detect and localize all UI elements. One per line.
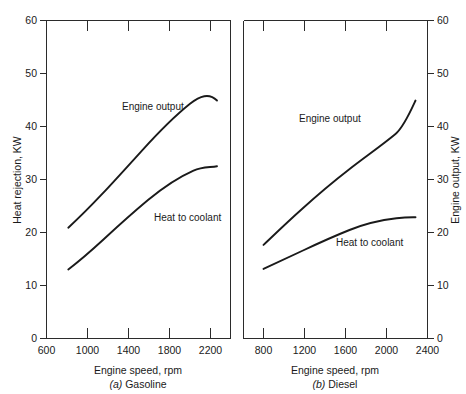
panel-a-ytick-40: 40 xyxy=(25,120,37,132)
panel-b-ytick-30: 30 xyxy=(437,173,449,185)
panel-a-xtick-600: 600 xyxy=(38,344,56,356)
panel-a-ytick-50: 50 xyxy=(25,67,37,79)
panel-b-caption-text: Diesel xyxy=(325,378,357,390)
panel-a-caption-prefix: (a) xyxy=(109,378,122,390)
panel-b-ytick-50: 50 xyxy=(437,67,449,79)
panel-a-x-axis-title: Engine speed, rpm xyxy=(94,364,182,376)
panel-a-x-ticks xyxy=(88,21,211,339)
figure-container: 60 50 40 30 20 10 0 600 1000 1400 1800 xyxy=(0,0,466,394)
panel-b-x-ticks xyxy=(264,21,387,339)
panel-a-xtick-1400: 1400 xyxy=(117,344,141,356)
panel-b-ytick-10: 10 xyxy=(437,279,449,291)
panel-b-y-ticks xyxy=(428,21,435,339)
panel-a-ytick-10: 10 xyxy=(25,279,37,291)
panel-b-xtick-800: 800 xyxy=(255,344,273,356)
panel-b-xtick-1600: 1600 xyxy=(334,344,358,356)
panel-a-ytick-60: 60 xyxy=(25,14,37,26)
panel-a: 60 50 40 30 20 10 0 600 1000 1400 1800 xyxy=(11,14,231,390)
panel-a-y-ticks xyxy=(40,21,47,339)
panel-b: 60 50 40 30 20 10 0 800 1200 1600 2000 2… xyxy=(244,14,462,390)
panel-a-label-engine-output: Engine output xyxy=(122,101,184,112)
panel-a-ytick-0: 0 xyxy=(31,332,37,344)
panel-b-xtick-2000: 2000 xyxy=(375,344,399,356)
panel-a-y-axis-title: Heat rejection, KW xyxy=(11,136,23,224)
panel-b-xtick-1200: 1200 xyxy=(293,344,317,356)
panel-a-xtick-1000: 1000 xyxy=(76,344,100,356)
panel-b-label-heat-to-coolant: Heat to coolant xyxy=(336,237,403,248)
panel-b-caption-prefix: (b) xyxy=(313,378,326,390)
dual-line-chart: 60 50 40 30 20 10 0 600 1000 1400 1800 xyxy=(0,0,466,394)
panel-a-series-engine-output xyxy=(68,96,217,228)
panel-b-ytick-20: 20 xyxy=(437,226,449,238)
panel-a-caption-text: Gasoline xyxy=(122,378,167,390)
panel-a-xtick-2200: 2200 xyxy=(199,344,223,356)
panel-b-xtick-2400: 2400 xyxy=(416,344,440,356)
panel-b-caption: (b) Diesel xyxy=(313,378,358,390)
panel-a-caption: (a) Gasoline xyxy=(109,378,166,390)
panel-b-y-axis-title: Engine output, KW xyxy=(449,136,461,224)
panel-a-ytick-30: 30 xyxy=(25,173,37,185)
panel-b-ytick-60: 60 xyxy=(437,14,449,26)
panel-a-ytick-20: 20 xyxy=(25,226,37,238)
panel-a-xtick-1800: 1800 xyxy=(158,344,182,356)
panel-b-ytick-40: 40 xyxy=(437,120,449,132)
panel-a-axis-frame xyxy=(47,21,231,339)
panel-b-ytick-0: 0 xyxy=(437,332,443,344)
panel-b-x-axis-title: Engine speed, rpm xyxy=(291,364,379,376)
panel-a-label-heat-to-coolant: Heat to coolant xyxy=(154,212,221,223)
panel-b-label-engine-output: Engine output xyxy=(299,113,361,124)
